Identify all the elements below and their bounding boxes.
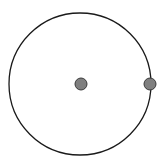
circle-diagram: [0, 0, 168, 158]
circumference-point: [144, 78, 156, 90]
diagram-canvas: [0, 0, 168, 158]
center-point: [75, 78, 87, 90]
